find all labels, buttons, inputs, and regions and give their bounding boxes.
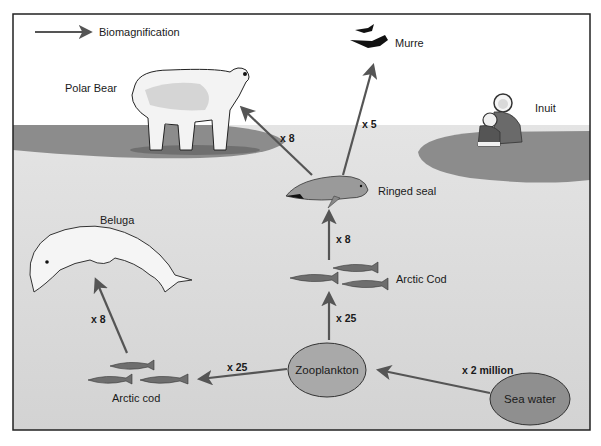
beluga-label: Beluga (100, 214, 135, 226)
zooplankton-label: Zooplankton (295, 364, 358, 376)
zooplankton-node: Zooplankton (288, 343, 366, 397)
legend-label: Biomagnification (99, 26, 180, 38)
biomagnification-diagram: Biomagnification Polar Bear Murre Inuit … (0, 0, 601, 446)
polar-bear-label: Polar Bear (65, 82, 117, 94)
multiplier-seal-to-bear: x 8 (280, 132, 295, 144)
sea-water-label: Sea water (504, 393, 556, 405)
multiplier-seal-to-murre: x 5 (362, 118, 377, 130)
multiplier-zooplankton-to-cod-upper: x 25 (336, 312, 357, 324)
multiplier-cod-lower-to-beluga: x 8 (91, 313, 106, 325)
multiplier-water-to-zooplankton: x 2 million (462, 364, 513, 376)
arctic-cod-lower-label: Arctic cod (112, 392, 160, 404)
arctic-cod-upper-label: Arctic Cod (396, 273, 447, 285)
murre-label: Murre (395, 37, 424, 49)
inuit-label: Inuit (535, 102, 556, 114)
multiplier-cod-to-seal: x 8 (336, 233, 351, 245)
multiplier-zooplankton-to-cod-lower: x 25 (227, 361, 248, 373)
ringed-seal-label: Ringed seal (378, 185, 436, 197)
sea-water-node: Sea water (490, 373, 570, 425)
